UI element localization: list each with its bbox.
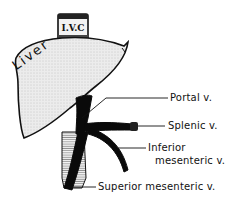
label-portal-vein: Portal v. xyxy=(170,93,212,103)
label-inferior-mesenteric-line2: mesenteric v. xyxy=(155,156,225,166)
label-inferior-mesenteric-line1: Inferior xyxy=(148,143,186,153)
label-superior-mesenteric-vein: Superior mesenteric v. xyxy=(98,182,215,192)
inferior-mesenteric-vein xyxy=(88,128,128,172)
label-splenic-vein: Splenic v. xyxy=(168,121,218,131)
splenic-vein-end xyxy=(130,122,138,131)
leader-portal xyxy=(82,98,168,118)
ivc-label: I.V.C xyxy=(60,23,86,33)
